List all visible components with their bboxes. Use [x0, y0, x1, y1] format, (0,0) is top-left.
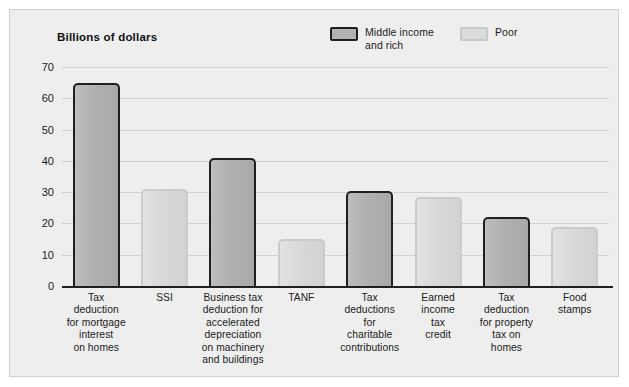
- bar: [278, 239, 325, 286]
- bar-chart-figure: Billions of dollars Middle income and ri…: [0, 0, 629, 387]
- chart-title: Billions of dollars: [57, 31, 157, 43]
- legend-label: Poor: [495, 26, 518, 39]
- bar: [209, 158, 256, 286]
- y-axis-tick-label: 50: [30, 124, 54, 136]
- y-axis-tick-label: 0: [30, 280, 54, 292]
- legend-label: Middle income and rich: [365, 26, 434, 51]
- legend-entry: Middle income and rich: [330, 26, 434, 51]
- bar: [73, 83, 120, 286]
- legend-swatch-rich: [330, 27, 358, 41]
- bar: [141, 189, 188, 286]
- y-axis-tick-label: 60: [30, 92, 54, 104]
- x-axis-line: [62, 286, 613, 288]
- x-axis-category-labels: Tax deduction for mortgage interest on h…: [62, 292, 613, 387]
- y-axis-tick-label: 40: [30, 155, 54, 167]
- y-axis-tick-labels: 706050403020100: [30, 67, 54, 286]
- y-axis-tick-label: 20: [30, 217, 54, 229]
- chart-legend: Middle income and richPoor: [330, 26, 518, 51]
- bar: [483, 217, 530, 286]
- y-axis-tick-label: 10: [30, 249, 54, 261]
- y-axis-tick-label: 70: [30, 61, 54, 73]
- bar: [551, 227, 598, 286]
- bar-series-group: [62, 67, 609, 286]
- legend-entry: Poor: [460, 26, 518, 41]
- x-axis-category-label: Food stamps: [533, 292, 617, 317]
- legend-swatch-poor: [460, 27, 488, 41]
- chart-plate: Billions of dollars Middle income and ri…: [9, 9, 619, 377]
- bar: [346, 191, 393, 286]
- bar: [415, 197, 462, 286]
- y-axis-tick-label: 30: [30, 186, 54, 198]
